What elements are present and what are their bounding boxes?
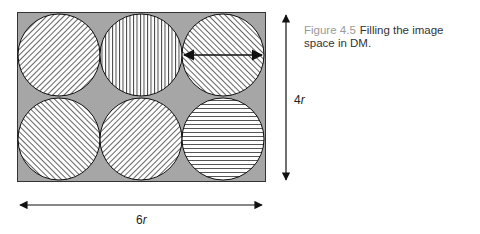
circle-r1-c1 [18,14,100,96]
circle-r1-c2 [100,14,182,96]
circle-r2-c1 [18,98,100,180]
width-dimension-label: 6r [136,213,148,227]
circle-r2-c3 [182,98,264,180]
figure-caption: Figure 4.5Filling the image space in DM. [304,24,474,50]
circle-r2-c2 [100,98,182,180]
height-dimension-label: 4r [294,93,306,107]
figure-number: Figure 4.5 [304,24,356,36]
